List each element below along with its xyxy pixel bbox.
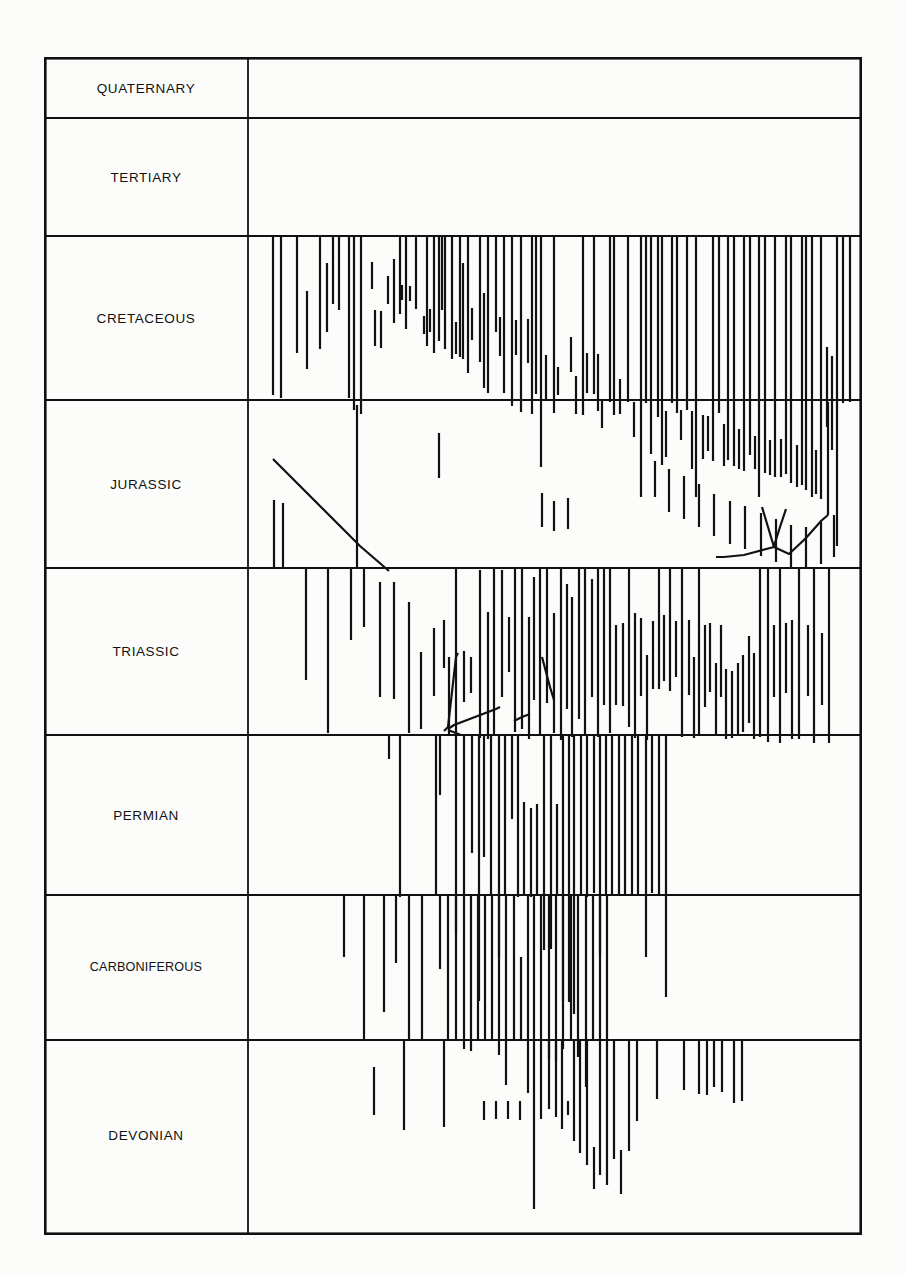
period-label-jurassic: JURASSIC (44, 477, 248, 492)
period-label-quaternary: QUATERNARY (44, 80, 248, 95)
range-chart-frame: QUATERNARYTERTIARYCRETACEOUSJURASSICTRIA… (44, 57, 862, 1235)
period-label-devonian: DEVONIAN (44, 1128, 248, 1143)
period-label-tertiary: TERTIARY (44, 170, 248, 185)
period-label-cretaceous: CRETACEOUS (44, 311, 248, 326)
period-label-carboniferous: CARBONIFEROUS (44, 960, 248, 974)
period-label-triassic: TRIASSIC (44, 644, 248, 659)
period-label-permian: PERMIAN (44, 808, 248, 823)
page-canvas: QUATERNARYTERTIARYCRETACEOUSJURASSICTRIA… (0, 0, 906, 1274)
